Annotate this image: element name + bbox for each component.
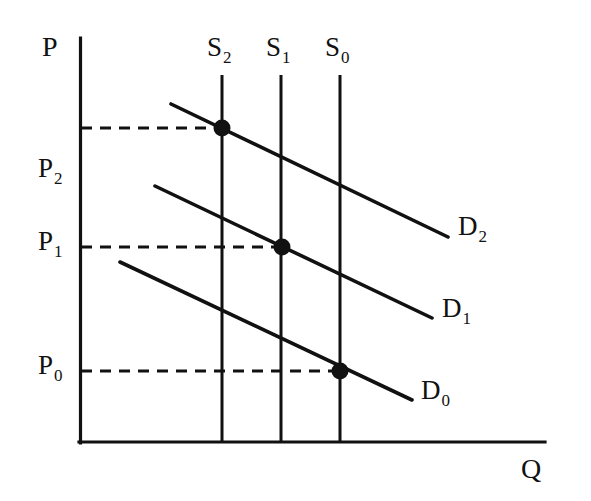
price-label-p0: P0 [38,352,62,379]
price-label-p2: P2 [38,155,62,182]
supply-label-s0-sub: 0 [341,48,350,67]
price-label-p0-base: P [38,350,53,380]
price-label-p1: P1 [38,228,62,255]
price-label-p2-sub: 2 [54,169,63,188]
x-axis-label: Q [521,455,541,483]
demand-label-d1-sub: 1 [463,309,472,328]
supply-label-s0-base: S [325,32,340,62]
price-label-p0-sub: 0 [54,366,63,385]
demand-label-d0: D0 [421,377,449,404]
x-axis-label-text: Q [521,453,541,484]
supply-label-s1-base: S [266,32,281,62]
demand-label-d1: D1 [442,295,470,322]
supply-label-s1-sub: 1 [282,48,291,67]
demand-label-d2: D2 [458,213,486,240]
demand-label-d1-base: D [442,293,462,323]
price-label-p2-base: P [38,153,53,183]
supply-label-s2: S2 [207,34,231,61]
supply-label-s2-sub: 2 [223,48,232,67]
supply-demand-diagram [0,0,591,501]
demand-label-d0-base: D [421,375,441,405]
price-guides-group [81,128,340,371]
equilibrium-point-e1 [274,239,291,256]
price-label-p1-base: P [38,226,53,256]
demand-curve-d2 [171,104,448,237]
demand-curve-d0 [120,262,412,400]
y-axis-label-text: P [42,31,58,62]
price-label-p1-sub: 1 [54,242,63,261]
supply-label-s1: S1 [266,34,290,61]
demand-label-d2-sub: 2 [479,227,488,246]
y-axis-label: P [42,33,58,61]
supply-label-s2-base: S [207,32,222,62]
equilibrium-point-e0 [332,363,349,380]
demand-label-d0-sub: 0 [442,391,451,410]
supply-curves-group [222,75,340,443]
supply-label-s0: S0 [325,34,349,61]
equilibrium-point-e2 [214,120,231,137]
figure-canvas: P Q S2 S1 S0 P2 P1 P0 D2 D1 D0 [0,0,591,501]
demand-label-d2-base: D [458,211,478,241]
